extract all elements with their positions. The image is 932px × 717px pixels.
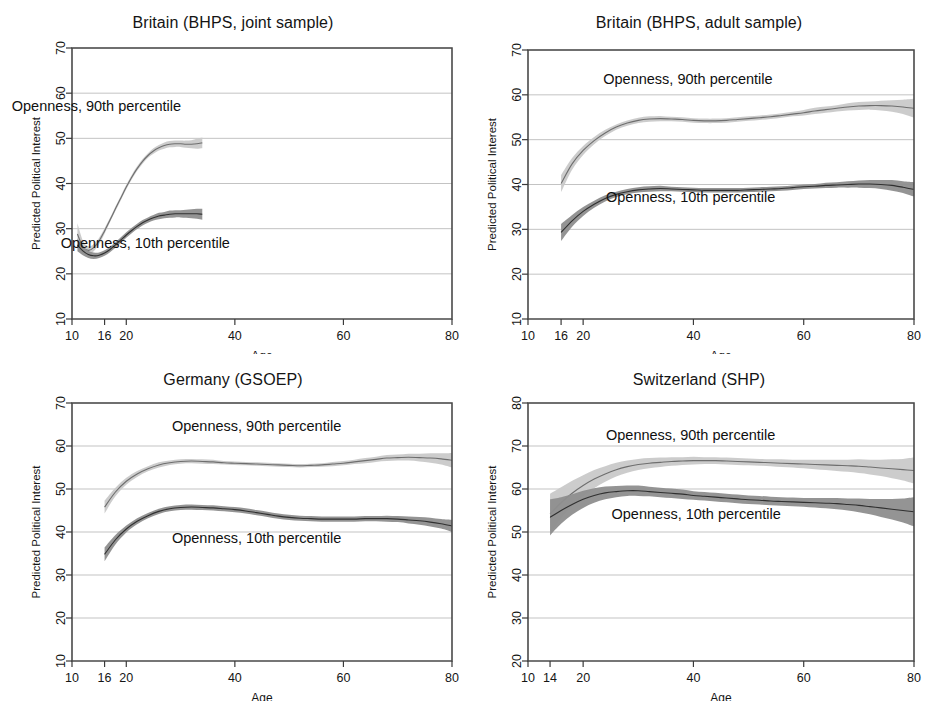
plot-area-britain-joint: 10203040506070101620406080Predicted Poli… [0, 14, 466, 354]
series-annotation-10th: Openness, 10th percentile [61, 235, 230, 251]
x-axis-tick-label: 40 [686, 671, 700, 685]
x-axis-tick-label: 80 [907, 671, 921, 685]
series-annotation-90th: Openness, 90th percentile [12, 98, 181, 114]
x-axis-tick-label: 80 [907, 329, 921, 343]
x-axis-title: Age [251, 691, 273, 701]
series-90th-confidence-band [105, 453, 452, 514]
y-axis-tick-label: 30 [54, 568, 68, 582]
y-axis-tick-label: 20 [54, 611, 68, 625]
y-axis-tick-label: 50 [54, 131, 68, 145]
y-axis-tick-label: 10 [54, 312, 68, 326]
x-axis-tick-label: 40 [228, 671, 242, 685]
x-axis-tick-label: 16 [554, 329, 568, 343]
y-axis-tick-label: 70 [510, 439, 524, 453]
y-axis-tick-label: 50 [510, 133, 524, 147]
y-axis-tick-label: 50 [510, 525, 524, 539]
x-axis-tick-label: 10 [521, 671, 535, 685]
y-axis-tick-label: 40 [510, 178, 524, 192]
y-axis-tick-label: 40 [510, 568, 524, 582]
series-annotation-10th: Openness, 10th percentile [172, 530, 341, 546]
series-annotation-10th: Openness, 10th percentile [606, 189, 775, 205]
x-axis-tick-label: 40 [686, 329, 700, 343]
x-axis-title: Age [251, 349, 273, 354]
x-axis-tick-label: 20 [576, 329, 590, 343]
y-axis-tick-label: 80 [510, 396, 524, 410]
y-axis-title: Predicted Political Interest [30, 465, 42, 599]
x-axis-title: Age [710, 349, 732, 354]
x-axis-tick-label: 16 [98, 671, 112, 685]
y-axis-tick-label: 10 [54, 654, 68, 668]
y-axis-tick-label: 30 [510, 611, 524, 625]
series-90th-confidence-band [561, 99, 914, 192]
panel-britain-joint: Britain (BHPS, joint sample) 10203040506… [0, 14, 466, 374]
y-axis-tick-label: 20 [510, 654, 524, 668]
panel-britain-adult: Britain (BHPS, adult sample) 10203040506… [466, 14, 932, 374]
x-axis-tick-label: 20 [576, 671, 590, 685]
x-axis-tick-label: 60 [336, 329, 350, 343]
y-axis-tick-label: 30 [54, 222, 68, 236]
y-axis-tick-label: 20 [54, 267, 68, 281]
x-axis-tick-label: 40 [228, 329, 242, 343]
x-axis-title: Age [710, 691, 732, 701]
y-axis-tick-label: 60 [510, 88, 524, 102]
x-axis-tick-label: 60 [797, 329, 811, 343]
panel-title: Germany (GSOEP) [0, 371, 466, 389]
y-axis-title: Predicted Political Interest [30, 116, 42, 250]
x-axis-tick-label: 20 [119, 671, 133, 685]
panel-title: Britain (BHPS, joint sample) [0, 14, 466, 32]
x-axis-tick-label: 10 [65, 671, 79, 685]
y-axis-tick-label: 60 [510, 482, 524, 496]
series-annotation-90th: Openness, 90th percentile [172, 418, 341, 434]
x-axis-tick-label: 20 [119, 329, 133, 343]
series-annotation-90th: Openness, 90th percentile [606, 427, 775, 443]
y-axis-tick-label: 10 [510, 312, 524, 326]
series-annotation-90th: Openness, 90th percentile [603, 71, 772, 87]
y-axis-tick-label: 40 [54, 525, 68, 539]
x-axis-tick-label: 10 [65, 329, 79, 343]
y-axis-title: Predicted Political Interest [486, 117, 498, 251]
series-annotation-10th: Openness, 10th percentile [612, 506, 781, 522]
y-axis-tick-label: 40 [54, 177, 68, 191]
x-axis-tick-label: 80 [445, 329, 459, 343]
y-axis-tick-label: 60 [54, 439, 68, 453]
x-axis-tick-label: 60 [797, 671, 811, 685]
plot-area-britain-adult: 10203040506070101620406080Predicted Poli… [466, 14, 932, 354]
figure-panel-grid: Britain (BHPS, joint sample) 10203040506… [0, 0, 932, 717]
y-axis-tick-label: 70 [510, 43, 524, 57]
x-axis-tick-label: 60 [336, 671, 350, 685]
x-axis-tick-label: 80 [445, 671, 459, 685]
y-axis-tick-label: 20 [510, 267, 524, 281]
y-axis-tick-label: 50 [54, 482, 68, 496]
y-axis-tick-label: 70 [54, 41, 68, 55]
plot-area-germany: 10203040506070101620406080Predicted Poli… [0, 371, 466, 701]
panel-title: Britain (BHPS, adult sample) [466, 14, 932, 32]
panel-title: Switzerland (SHP) [466, 371, 932, 389]
y-axis-tick-label: 70 [54, 396, 68, 410]
x-axis-tick-label: 16 [98, 329, 112, 343]
panel-germany: Germany (GSOEP) 102030405060701016204060… [0, 371, 466, 717]
panel-switzerland: Switzerland (SHP) 2030405060708010142040… [466, 371, 932, 717]
series-90th-mean-line [561, 106, 914, 184]
y-axis-title: Predicted Political Interest [486, 465, 498, 599]
x-axis-tick-label: 10 [521, 329, 535, 343]
plot-area-switzerland: 20304050607080101420406080Predicted Poli… [466, 371, 932, 701]
x-axis-tick-label: 14 [543, 671, 557, 685]
y-axis-tick-label: 30 [510, 222, 524, 236]
